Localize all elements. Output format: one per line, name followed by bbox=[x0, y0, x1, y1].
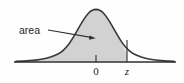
tick-label-z: z bbox=[124, 65, 130, 77]
area-callout-label: area bbox=[19, 24, 40, 36]
normal-curve-figure: 0 z area bbox=[0, 0, 184, 83]
tick-label-zero: 0 bbox=[93, 65, 99, 77]
